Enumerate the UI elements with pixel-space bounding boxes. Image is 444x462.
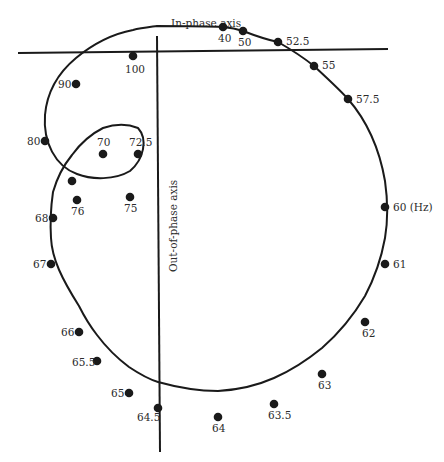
frequency-label: 70	[97, 136, 110, 148]
frequency-point	[344, 95, 353, 104]
frequency-point	[274, 38, 283, 47]
frequency-response-curve	[45, 26, 387, 391]
frequency-label: 52.5	[286, 35, 309, 47]
out-of-phase-axis-title: Out-of-phase axis	[167, 180, 179, 272]
frequency-point	[47, 260, 56, 269]
frequency-label: 80	[27, 135, 40, 147]
frequency-label: 57.5	[356, 93, 379, 105]
frequency-point	[72, 80, 81, 89]
frequency-label: 40	[218, 32, 231, 44]
frequency-point	[214, 413, 223, 422]
frequency-point	[75, 328, 84, 337]
frequency-point	[239, 27, 248, 36]
frequency-point	[41, 137, 50, 146]
frequency-label: 63.5	[268, 409, 291, 421]
frequency-label: 64	[212, 422, 226, 434]
frequency-label: 90	[58, 78, 71, 90]
frequency-point	[361, 318, 370, 327]
frequency-point	[381, 260, 390, 269]
in-phase-axis-line	[18, 49, 388, 53]
frequency-points: 405052.55557.560 (Hz)61626363.56464.5656…	[27, 23, 433, 434]
frequency-label: 55	[322, 59, 335, 71]
frequency-point	[99, 150, 108, 159]
frequency-label: 65	[111, 387, 124, 399]
frequency-point	[73, 196, 82, 205]
frequency-label: 65.5	[72, 356, 95, 368]
frequency-label: 75	[124, 202, 137, 214]
frequency-point	[381, 203, 390, 212]
nyquist-diagram: In-phase axis Out-of-phase axis 405052.5…	[0, 0, 444, 462]
frequency-label: 64.5	[137, 411, 160, 423]
frequency-label: 72.5	[129, 136, 152, 148]
frequency-label: 50	[238, 36, 251, 48]
frequency-label: 60 (Hz)	[393, 201, 433, 213]
frequency-point	[270, 400, 279, 409]
frequency-label: 63	[318, 379, 331, 391]
frequency-label: 100	[125, 63, 145, 75]
frequency-point	[125, 389, 134, 398]
frequency-point	[219, 23, 228, 32]
frequency-point	[129, 52, 138, 61]
frequency-point	[318, 370, 327, 379]
frequency-label: 62	[362, 327, 375, 339]
frequency-label: 66	[61, 326, 75, 338]
frequency-label: 67	[33, 258, 46, 270]
frequency-label: 68	[35, 212, 48, 224]
frequency-point	[49, 214, 58, 223]
frequency-point	[68, 177, 77, 186]
out-of-phase-axis-line	[157, 36, 160, 452]
frequency-point	[126, 193, 135, 202]
frequency-label: 76	[71, 205, 85, 217]
frequency-label: 61	[393, 258, 406, 270]
diagram-svg: In-phase axis Out-of-phase axis 405052.5…	[0, 0, 444, 462]
frequency-point	[310, 62, 319, 71]
frequency-point	[134, 150, 143, 159]
